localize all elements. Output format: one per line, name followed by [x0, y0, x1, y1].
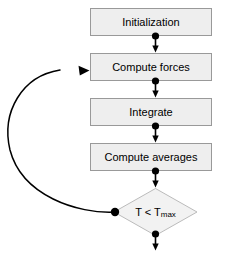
node-initialization[interactable]: [91, 9, 212, 36]
edge-averages-to-condition: [152, 167, 159, 187]
node-condition-diamond[interactable]: [114, 189, 197, 236]
node-compute-averages[interactable]: [91, 144, 212, 171]
edge-forces-to-integrate: [152, 77, 159, 97]
flowchart-diagram: Initialization Compute forces Integrate …: [0, 0, 228, 254]
edge-init-to-forces: [152, 32, 159, 52]
node-integrate[interactable]: [91, 99, 212, 126]
flowchart-canvas: [0, 0, 228, 254]
edge-condition-exit: [152, 230, 159, 250]
edge-integrate-to-averages: [152, 122, 159, 142]
node-compute-forces[interactable]: [91, 54, 212, 81]
edge-feedback-loop: [8, 66, 119, 216]
